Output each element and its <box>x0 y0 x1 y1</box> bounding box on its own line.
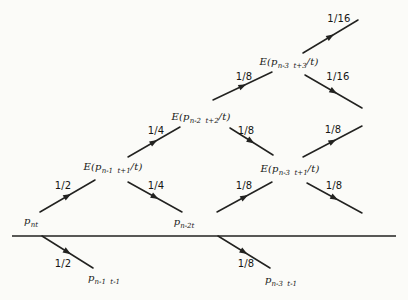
node-label-subscript: n-3 t-1 <box>272 280 297 288</box>
label-layer: 1/21/41/41/81/81/81/161/161/81/81/21/8pn… <box>0 0 408 300</box>
node-label-main: E(p <box>171 111 189 122</box>
probability-label-pnt-to-epn1: 1/2 <box>55 181 72 191</box>
probability-label-epn2-to-epn3t3: 1/8 <box>236 72 253 82</box>
probability-label-axis-to-pn1-tminus1: 1/2 <box>55 259 72 269</box>
node-label-subscript: n-1 t-1 <box>95 278 120 286</box>
price-expectation-tree-figure: 1/21/41/41/81/81/81/161/161/81/81/21/8pn… <box>0 0 408 300</box>
node-label-p-n1-tminus1: pn-1 t-1 <box>88 273 120 283</box>
probability-label-epn2-to-epn3t1: 1/8 <box>238 126 255 136</box>
node-label-main: E(p <box>259 56 277 67</box>
node-label-main: p <box>174 216 181 227</box>
node-label-subscript: n-1 t+1 <box>102 167 131 175</box>
node-label-subscript: n-3 t+3 <box>278 62 307 70</box>
probability-label-epn3t1-up: 1/8 <box>325 125 342 135</box>
node-label-e-pn2-t2: E(pn-2 t+2/t) <box>171 112 230 122</box>
node-label-tail: /t) <box>307 56 319 67</box>
node-label-tail: /t) <box>308 163 320 174</box>
node-label-subscript: n-2 t+2 <box>190 117 219 125</box>
node-label-subscript: n-2t <box>180 222 194 230</box>
node-label-e-pn1-t1: E(pn-1 t+1/t) <box>83 162 142 172</box>
probability-label-epn3t3-up: 1/16 <box>327 14 350 24</box>
node-label-tail: /t) <box>131 161 143 172</box>
node-label-p-n2t: pn-2t <box>174 217 195 227</box>
probability-label-epn3t1-down: 1/8 <box>326 181 343 191</box>
node-label-p-n3-tminus1: pn-3 t-1 <box>265 275 297 285</box>
node-label-main: p <box>265 274 272 285</box>
node-label-main: p <box>88 272 95 283</box>
node-label-main: E(p <box>83 161 101 172</box>
node-label-subscript: n-3 t+1 <box>279 169 308 177</box>
probability-label-epn1-to-epn2: 1/4 <box>148 126 165 136</box>
probability-label-epn1-to-pn2t: 1/4 <box>148 181 165 191</box>
node-label-main: E(p <box>260 163 278 174</box>
node-label-e-pn3-t1: E(pn-3 t+1/t) <box>260 164 319 174</box>
node-label-main: p <box>24 215 31 226</box>
node-label-e-pn3-t3: E(pn-3 t+3/t) <box>259 57 318 67</box>
node-label-tail: /t) <box>219 111 231 122</box>
node-label-subscript: nt <box>31 221 38 229</box>
node-label-p-nt: pnt <box>24 216 38 226</box>
probability-label-pn2t-to-epn3t1: 1/8 <box>236 181 253 191</box>
probability-label-epn3t3-down: 1/16 <box>326 72 349 82</box>
probability-label-axis-to-pn3-tminus1: 1/8 <box>238 259 255 269</box>
